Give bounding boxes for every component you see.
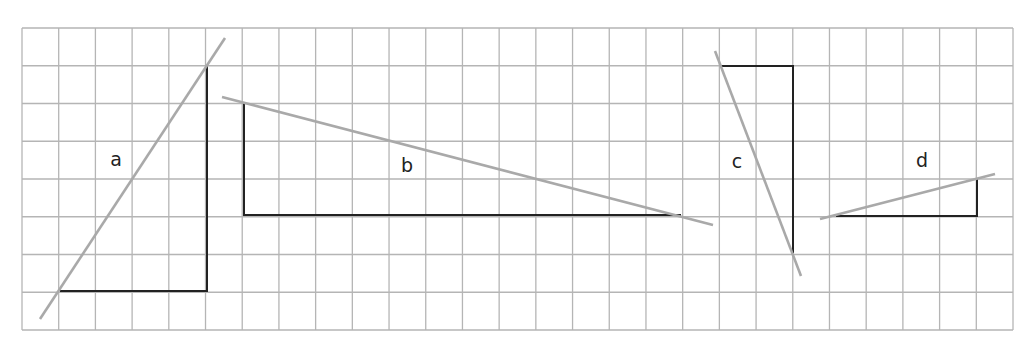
sloped-line: [222, 97, 713, 225]
figure-label: c: [732, 150, 742, 172]
sloped-line: [715, 51, 801, 276]
sloped-line: [820, 174, 995, 219]
grid-paper: [22, 28, 1013, 330]
figure-d: d: [820, 149, 995, 219]
figure-label: b: [401, 154, 413, 176]
figure-label: a: [110, 148, 122, 170]
figure-c: c: [715, 51, 801, 276]
figure-label: d: [916, 149, 928, 171]
slope-grid-diagram: abcd: [0, 0, 1031, 351]
figure-b: b: [222, 97, 713, 225]
